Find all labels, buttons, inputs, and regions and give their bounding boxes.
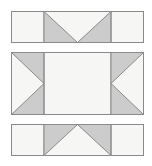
middle-center-face (44, 53, 111, 115)
middle-panel (12, 53, 144, 115)
net-diagram-svg (0, 0, 152, 166)
top-left-flap (12, 12, 45, 43)
bottom-panel (12, 125, 144, 156)
top-right-flap (111, 12, 144, 43)
bottom-right-flap (111, 125, 144, 156)
diagram-canvas (0, 0, 152, 166)
top-panel (12, 12, 144, 43)
bottom-left-flap (12, 125, 45, 156)
